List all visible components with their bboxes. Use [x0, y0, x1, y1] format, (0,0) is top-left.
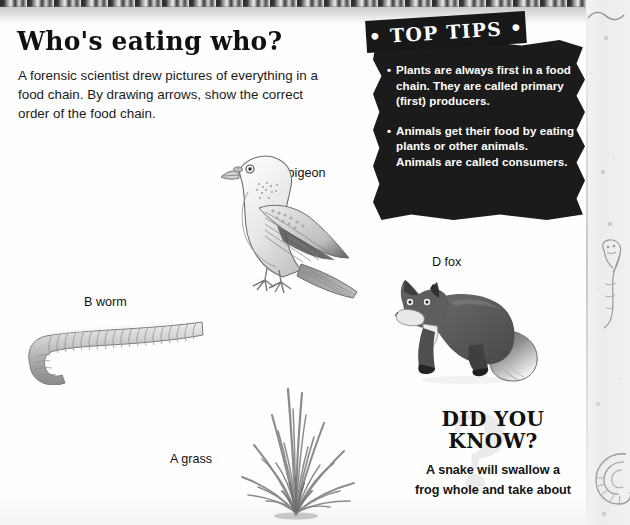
snail-shell-doodle-icon	[586, 448, 630, 522]
squiggle-doodle-icon	[586, 10, 626, 28]
worm-doodle-icon	[594, 238, 628, 334]
pigeon-illustration	[215, 146, 365, 305]
specimen-label-fox: D fox	[432, 255, 461, 269]
top-tips-list: • Plants are always first in a food chai…	[387, 62, 575, 183]
bullet-icon: •	[387, 62, 396, 109]
margin-dot	[604, 36, 608, 40]
worksheet-page: Who's eating who? A forensic scientist d…	[0, 0, 630, 525]
intro-paragraph: A forensic scientist drew pictures of ev…	[18, 66, 338, 123]
specimen-label-grass: A grass	[170, 452, 212, 466]
did-you-know-block: DID YOU KNOW? A snake will swallow a fro…	[398, 408, 588, 500]
top-tips-item: • Animals get their food by eating plant…	[387, 123, 575, 170]
top-tips-item-text: Animals get their food by eating plants …	[396, 123, 575, 170]
margin-dot	[602, 512, 606, 516]
margin-dot	[596, 402, 600, 406]
top-tips-banner-label: • TOP TIPS •	[368, 16, 524, 48]
page-title: Who's eating who?	[17, 26, 282, 56]
fox-illustration	[393, 272, 568, 396]
did-you-know-title-line-1: DID YOU	[398, 408, 588, 430]
top-tips-item: • Plants are always first in a food chai…	[387, 62, 575, 109]
did-you-know-body-line-1: A snake will swallow a	[398, 460, 588, 480]
scan-top-shadow	[0, 6, 630, 24]
margin-dot	[601, 170, 605, 174]
earthworm-illustration	[22, 305, 207, 389]
margin-dot	[608, 222, 612, 226]
top-tips-item-text: Plants are always first in a food chain.…	[396, 62, 575, 109]
did-you-know-body-line-2: frog whole and take about	[398, 480, 588, 500]
did-you-know-title-line-2: KNOW?	[398, 430, 588, 452]
bullet-icon: •	[387, 123, 396, 170]
